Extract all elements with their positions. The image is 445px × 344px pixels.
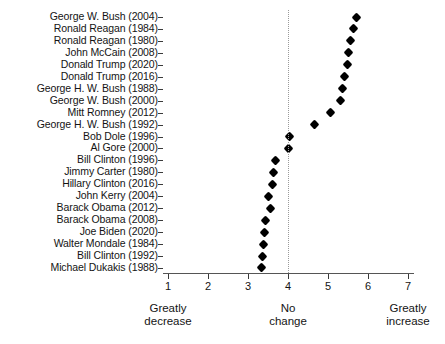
category-axis-labels: George W. Bush (2004)Ronald Reagan (1984… — [0, 0, 158, 344]
y-axis-tick — [158, 17, 163, 18]
y-axis-tick — [158, 77, 163, 78]
scale-anchor-line2: change — [243, 315, 333, 328]
x-axis-tick — [208, 274, 209, 279]
scale-anchor-line2: increase — [363, 315, 445, 328]
category-label: George W. Bush (2000) — [50, 95, 158, 106]
data-point — [325, 108, 335, 118]
category-label: Donald Trump (2016) — [61, 71, 158, 82]
data-point — [309, 120, 319, 130]
scale-anchor-label: Greatlyincrease — [363, 302, 445, 328]
category-label: Ronald Reagan (1980) — [54, 35, 158, 46]
scale-anchor-label: Greatlydecrease — [123, 302, 213, 328]
y-axis-tick — [158, 184, 163, 185]
x-axis-tick — [328, 274, 329, 279]
dot-plot-chart: George W. Bush (2004)Ronald Reagan (1984… — [0, 0, 445, 344]
data-point — [258, 239, 268, 249]
y-axis-tick — [158, 137, 163, 138]
y-axis-tick — [158, 101, 163, 102]
y-axis-tick — [158, 232, 163, 233]
y-axis-tick — [158, 29, 163, 30]
x-axis-tick — [168, 274, 169, 279]
no-change-reference-line — [288, 10, 290, 273]
y-axis-tick — [158, 208, 163, 209]
x-axis-tick-label: 1 — [156, 280, 180, 292]
data-point — [343, 48, 353, 58]
x-axis-tick — [248, 274, 249, 279]
x-axis-tick-label: 5 — [316, 280, 340, 292]
category-label: Michael Dukakis (1988) — [50, 262, 158, 273]
data-point — [265, 203, 275, 213]
category-label: George H. W. Bush (1988) — [37, 83, 158, 94]
category-label: Ronald Reagan (1984) — [54, 23, 158, 34]
data-point — [348, 24, 358, 34]
y-axis-tick — [158, 41, 163, 42]
data-point — [260, 215, 270, 225]
data-point — [335, 96, 345, 106]
category-label: Bob Dole (1996) — [83, 131, 158, 142]
y-axis-tick — [158, 65, 163, 66]
x-axis-tick-label: 2 — [196, 280, 220, 292]
category-label: Joe Biden (2020) — [80, 226, 158, 237]
category-label: George H. W. Bush (1992) — [37, 119, 158, 130]
y-axis-tick — [158, 220, 163, 221]
x-axis-tick — [408, 274, 409, 279]
y-axis-tick — [158, 244, 163, 245]
y-axis-tick — [158, 53, 163, 54]
y-axis-tick — [158, 125, 163, 126]
category-label: Barack Obama (2008) — [57, 214, 158, 225]
y-axis-tick — [158, 172, 163, 173]
x-axis-tick — [288, 274, 289, 279]
category-label: Walter Mondale (1984) — [54, 238, 158, 249]
x-axis-tick-label: 3 — [236, 280, 260, 292]
data-point — [257, 251, 267, 261]
data-point — [263, 191, 273, 201]
x-axis-tick-label: 7 — [396, 280, 420, 292]
category-label: Bill Clinton (1992) — [77, 250, 158, 261]
x-axis-tick — [368, 274, 369, 279]
y-axis-tick — [158, 89, 163, 90]
y-axis-tick — [158, 196, 163, 197]
y-axis-tick — [158, 113, 163, 114]
category-label: John Kerry (2004) — [76, 190, 158, 201]
data-point — [342, 60, 352, 70]
category-label: Hillary Clinton (2016) — [62, 178, 158, 189]
category-label: Donald Trump (2020) — [61, 59, 158, 70]
data-point — [268, 167, 278, 177]
category-label: Bill Clinton (1996) — [77, 154, 158, 165]
category-label: Al Gore (2000) — [91, 142, 158, 153]
data-point — [270, 155, 280, 165]
category-label: John McCain (2008) — [65, 47, 158, 58]
x-axis-tick-label: 6 — [356, 280, 380, 292]
y-axis-tick — [158, 268, 163, 269]
data-point — [345, 36, 355, 46]
data-point — [339, 72, 349, 82]
category-label: Mitt Romney (2012) — [68, 107, 158, 118]
data-point — [259, 227, 269, 237]
category-label: George W. Bush (2004) — [50, 11, 158, 22]
data-point — [256, 263, 266, 273]
scale-anchor-line2: decrease — [123, 315, 213, 328]
scale-anchor-line1: Greatly — [123, 302, 213, 315]
scale-anchor-line1: No — [243, 302, 333, 315]
data-point — [351, 12, 361, 22]
y-axis-tick — [158, 148, 163, 149]
scale-anchor-label: Nochange — [243, 302, 333, 328]
y-axis-tick — [158, 256, 163, 257]
x-axis-tick-label: 4 — [276, 280, 300, 292]
y-axis-tick — [158, 160, 163, 161]
data-point — [337, 84, 347, 94]
data-point — [267, 179, 277, 189]
scale-anchor-line1: Greatly — [363, 302, 445, 315]
category-label: Barack Obama (2012) — [57, 202, 158, 213]
category-label: Jimmy Carter (1980) — [64, 166, 158, 177]
